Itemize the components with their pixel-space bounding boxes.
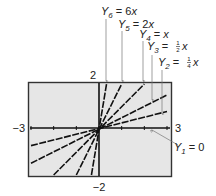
annotation-y6: Y6 = 6x — [101, 5, 137, 81]
ymax-label: 2 — [90, 69, 96, 81]
annotation-label: Y5 = 2x — [118, 18, 154, 33]
annotation-label: Y2 = — [158, 56, 179, 71]
svg-text:1: 1 — [187, 56, 191, 62]
chart: −3 3 2 −2 Y2 = 14xY3 = 12xY4 = xY5 = 2xY… — [0, 0, 216, 196]
ymin-label: −2 — [93, 181, 106, 193]
xmax-label: 3 — [175, 122, 181, 134]
svg-text:1: 1 — [176, 40, 180, 46]
svg-text:2: 2 — [176, 47, 180, 53]
xmin-label: −3 — [12, 122, 25, 134]
annotation-label: Y1 = 0 — [174, 141, 204, 156]
svg-text:x: x — [181, 40, 188, 52]
svg-text:x: x — [192, 56, 199, 68]
svg-text:4: 4 — [187, 63, 191, 69]
